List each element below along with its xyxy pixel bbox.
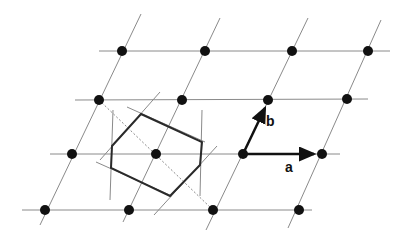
vector-b-label: b: [266, 113, 275, 129]
lattice-diagram: [0, 0, 410, 245]
vector-b-arrow: [243, 108, 265, 154]
lattice-points: [40, 46, 373, 215]
slanted-lattice-lines: [40, 14, 381, 230]
vector-a-label: a: [285, 159, 293, 175]
horizontal-lattice-lines: [22, 51, 390, 210]
